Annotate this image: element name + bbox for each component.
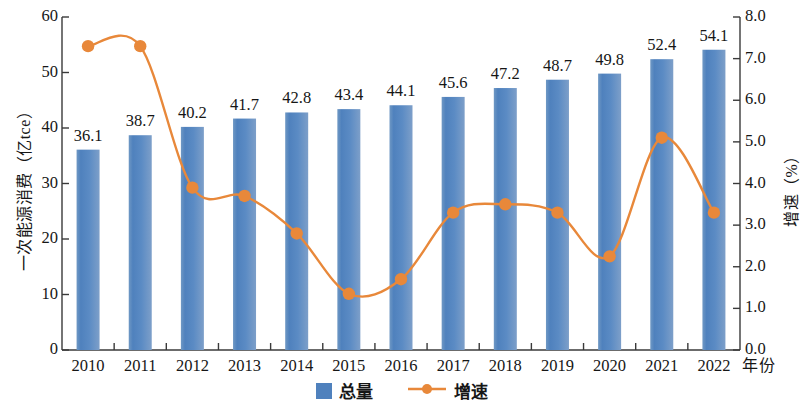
bar-value-label: 40.2	[165, 105, 219, 122]
bar-value-label: 54.1	[687, 28, 741, 45]
bar-value-label: 48.7	[530, 58, 584, 75]
bar-value-label: 38.7	[113, 113, 167, 130]
legend-label-growth: 增速	[454, 378, 488, 402]
bar-value-label: 52.4	[635, 37, 689, 54]
plot-area	[0, 0, 803, 402]
legend-bar-swatch-icon	[316, 383, 332, 399]
bar-value-label: 42.8	[270, 90, 324, 107]
bar-value-label: 43.4	[322, 87, 376, 104]
bar-value-label: 47.2	[478, 66, 532, 83]
legend-item-growth[interactable]: 增速	[407, 378, 488, 402]
chart-legend: 总量 增速	[0, 378, 803, 402]
legend-item-total[interactable]: 总量	[316, 378, 373, 402]
bar-value-label: 41.7	[218, 97, 272, 114]
bar-value-label: 45.6	[426, 75, 480, 92]
bar-value-label: 44.1	[374, 83, 428, 100]
legend-label-total: 总量	[339, 378, 373, 402]
bar-value-label: 36.1	[61, 128, 115, 145]
legend-line-circle-icon	[407, 381, 447, 401]
chart-figure: 一次能源消费（亿tce） 增速（%） 年份 0102030405060 0.01…	[0, 0, 803, 402]
bar-value-label: 49.8	[583, 52, 637, 69]
